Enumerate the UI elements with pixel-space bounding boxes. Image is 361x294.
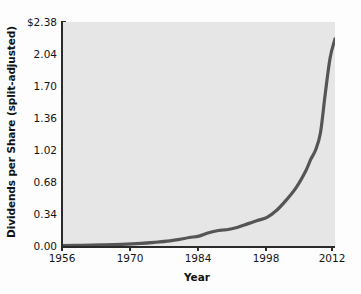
y-tick-label: $2.38: [11, 16, 57, 28]
y-tick-label: 1.70: [11, 80, 57, 92]
x-tick-label: 2012: [305, 252, 359, 264]
dividends-per-share-chart: Dividends per Share (split-adjusted) $2.…: [0, 0, 361, 294]
x-tick-mark: [197, 246, 199, 251]
x-tick-label: 1970: [103, 252, 157, 264]
dividends-line: [63, 39, 335, 246]
x-axis-title: Year: [61, 271, 333, 283]
y-tick-label: 0.34: [11, 208, 57, 220]
x-tick-mark: [61, 246, 63, 251]
y-axis-tick-labels: $2.38 2.04 1.70 1.36 1.02 0.68 0.34 0.00: [9, 0, 57, 294]
y-tick-label: 0.00: [11, 240, 57, 252]
y-tick-label: 1.02: [11, 144, 57, 156]
x-tick-label: 1984: [171, 252, 225, 264]
x-tick-mark: [331, 246, 333, 251]
x-tick-label: 1956: [35, 252, 89, 264]
x-tick-mark: [129, 246, 131, 251]
x-tick-mark: [265, 246, 267, 251]
plot-area: [61, 22, 335, 248]
data-line-svg: [63, 22, 335, 246]
y-tick-label: 0.68: [11, 176, 57, 188]
y-tick-label: 1.36: [11, 112, 57, 124]
y-tick-label: 2.04: [11, 48, 57, 60]
x-tick-label: 1998: [239, 252, 293, 264]
